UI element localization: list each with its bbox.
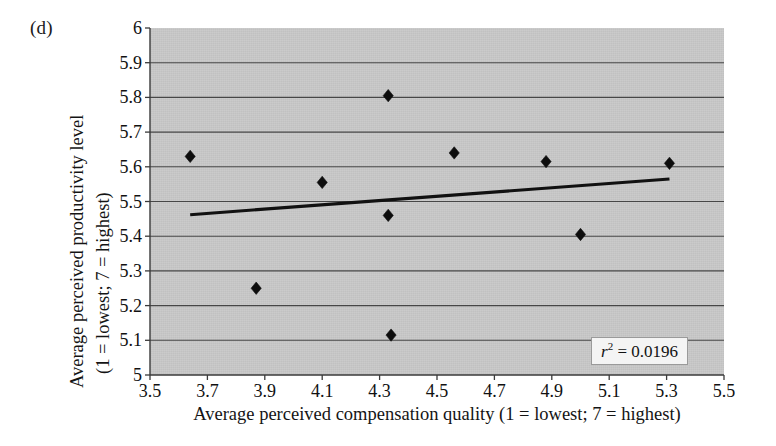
y-tick-label: 5.4 — [120, 227, 143, 245]
data-point — [383, 89, 393, 101]
x-tick-label: 4.5 — [426, 382, 449, 400]
data-point — [449, 147, 459, 159]
y-tick-label: 5.2 — [120, 297, 143, 315]
plot-area — [150, 28, 724, 375]
y-tick-label: 5.3 — [120, 262, 143, 280]
x-tick-label: 4.7 — [483, 382, 506, 400]
y-axis-title-line-1: Average perceived productivity level — [68, 115, 87, 388]
y-tick-label: 5.8 — [120, 88, 143, 106]
x-tick-label: 3.9 — [254, 382, 277, 400]
y-tick-label: 5.7 — [120, 123, 143, 141]
data-point — [251, 282, 261, 294]
data-point — [541, 155, 551, 167]
data-points — [185, 89, 674, 341]
trendline — [190, 179, 669, 215]
trendline-segment — [190, 179, 669, 215]
x-axis-title: Average perceived compensation quality (… — [150, 405, 724, 424]
y-tick-label: 5.1 — [120, 331, 143, 349]
x-tick-label: 3.7 — [196, 382, 219, 400]
data-point — [185, 150, 195, 162]
x-tick-label: 4.3 — [368, 382, 391, 400]
y-axis-title: Average perceived productivity level (1 … — [0, 0, 150, 400]
x-tick-label: 3.5 — [139, 382, 162, 400]
x-tick-label: 4.1 — [311, 382, 334, 400]
y-tick-label: 5.9 — [120, 54, 143, 72]
x-tick-label: 5.3 — [655, 382, 678, 400]
y-tick-label: 5.5 — [120, 193, 143, 211]
y-tick-label: 6 — [133, 19, 142, 37]
r-squared-symbol: r — [601, 342, 608, 361]
plot-svg — [150, 28, 724, 375]
figure-panel-d: (d) Average perceived productivity level… — [0, 0, 776, 446]
x-tick-label: 4.9 — [541, 382, 564, 400]
y-axis-tick-labels: 55.15.25.35.45.55.65.75.85.96 — [0, 0, 150, 446]
x-tick-label: 5.5 — [713, 382, 736, 400]
gridlines — [150, 63, 724, 341]
data-point — [575, 228, 585, 240]
data-point — [383, 209, 393, 221]
r-squared-annotation: r2 = 0.0196 — [591, 337, 688, 365]
y-tick-label: 5 — [133, 366, 142, 384]
y-tick-label: 5.6 — [120, 158, 143, 176]
panel-label: (d) — [30, 18, 53, 37]
data-point — [317, 176, 327, 188]
tick-marks — [145, 28, 724, 380]
y-axis-title-line-2: (1 = lowest; 7 = highest) — [94, 192, 113, 374]
r-squared-value: = 0.0196 — [613, 342, 678, 361]
data-point — [664, 157, 674, 169]
x-tick-label: 5.1 — [598, 382, 621, 400]
data-point — [386, 329, 396, 341]
